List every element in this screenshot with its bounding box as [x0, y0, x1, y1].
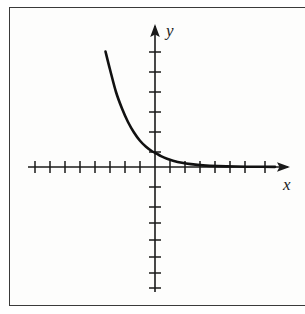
x-axis-label: x — [283, 176, 291, 193]
graph-canvas — [0, 0, 305, 314]
exponential-graph-figure: y x — [0, 0, 305, 314]
y-axis-label: y — [166, 22, 174, 39]
exponential-decay-curve — [106, 52, 276, 167]
